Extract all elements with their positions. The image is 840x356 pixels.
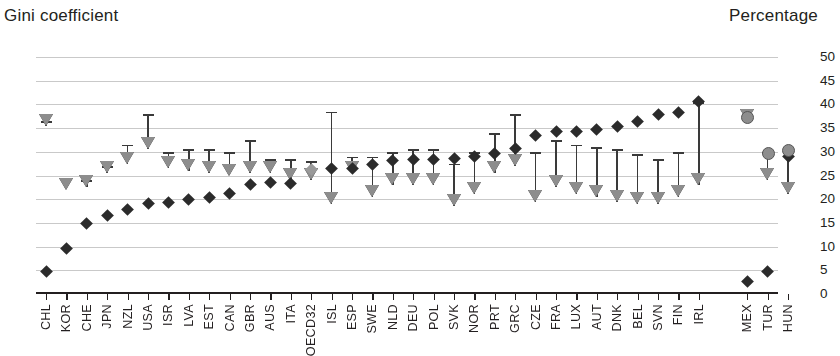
- x-axis-category-label: OECD32: [304, 304, 318, 356]
- percentage-triangle-marker: [528, 190, 542, 202]
- gini-diamond-marker: [386, 154, 399, 167]
- x-axis-tick: [638, 294, 639, 300]
- x-axis-tick: [597, 294, 598, 300]
- x-axis-tick: [536, 294, 537, 300]
- range-upper-cap: [326, 112, 337, 114]
- percentage-triangle-marker: [651, 192, 665, 204]
- x-axis-tick: [474, 294, 475, 300]
- range-upper-cap: [612, 149, 623, 151]
- y-axis-right-tick-label: 30: [820, 145, 840, 159]
- x-axis-category-label: PRT: [488, 304, 502, 330]
- x-axis-category-label: LVA: [182, 304, 196, 327]
- x-axis-category-label: GRC: [508, 304, 522, 333]
- percentage-triangle-marker: [467, 182, 481, 194]
- percentage-triangle-marker: [385, 173, 399, 185]
- percentage-triangle-marker: [487, 161, 501, 173]
- gini-diamond-marker: [325, 162, 338, 175]
- gini-diamond-marker: [244, 179, 257, 192]
- x-axis-tick: [168, 294, 169, 300]
- gridline: [36, 247, 778, 248]
- x-axis-category-label: IRL: [692, 304, 706, 325]
- y-axis-right-tick-label: 35: [820, 121, 840, 135]
- gridline: [36, 81, 778, 82]
- gini-diamond-marker: [223, 187, 236, 200]
- plot-area: 6050554550404535403035253020251520101551…: [36, 57, 778, 294]
- right-axis-title: Percentage: [729, 6, 818, 26]
- range-upper-cap: [428, 149, 439, 151]
- percentage-triangle-marker: [508, 154, 522, 166]
- percentage-triangle-marker: [100, 161, 114, 173]
- gini-diamond-marker: [509, 142, 522, 155]
- range-upper-cap: [530, 152, 541, 154]
- x-axis-category-label: SVK: [447, 304, 461, 330]
- x-axis-tick: [311, 294, 312, 300]
- y-axis-right-tick-label: 50: [820, 50, 840, 64]
- percentage-upper-marker: [741, 111, 754, 124]
- range-upper-cap: [224, 152, 235, 154]
- x-axis-category-label: MEX: [740, 304, 754, 332]
- percentage-triangle-marker: [120, 152, 134, 164]
- x-axis-tick: [495, 294, 496, 300]
- gridline: [36, 104, 778, 105]
- x-axis-tick: [768, 294, 769, 300]
- gini-diamond-marker: [121, 203, 134, 216]
- percentage-triangle-marker: [202, 161, 216, 173]
- y-axis-right-tick-label: 0: [820, 287, 840, 301]
- x-axis-category-label: CZE: [529, 304, 543, 330]
- x-axis-tick: [393, 294, 394, 300]
- x-axis-tick: [454, 294, 455, 300]
- range-upper-cap: [673, 152, 684, 154]
- x-axis-tick: [46, 294, 47, 300]
- x-axis-tick: [747, 294, 748, 300]
- x-axis-category-label: AUS: [263, 304, 277, 331]
- x-axis-tick: [372, 294, 373, 300]
- percentage-triangle-marker: [59, 178, 73, 190]
- x-axis-tick: [413, 294, 414, 300]
- x-axis-tick: [699, 294, 700, 300]
- y-axis-right-tick-label: 25: [820, 169, 840, 183]
- range-upper-cap: [510, 114, 521, 116]
- x-axis-category-label: NOR: [467, 304, 481, 333]
- y-axis-right-tick-label: 15: [820, 216, 840, 230]
- y-axis-right-tick-label: 45: [820, 74, 840, 88]
- gini-diamond-marker: [631, 115, 644, 128]
- x-axis-category-label: USA: [141, 304, 155, 331]
- x-axis-tick: [230, 294, 231, 300]
- gini-diamond-marker: [672, 106, 685, 119]
- range-line: [331, 112, 333, 204]
- gini-diamond-marker: [264, 176, 277, 189]
- x-axis-tick: [209, 294, 210, 300]
- x-axis-tick: [107, 294, 108, 300]
- x-axis-tick: [270, 294, 271, 300]
- gini-diamond-marker: [488, 147, 501, 160]
- x-axis-category-label: FRA: [549, 304, 563, 330]
- x-axis-tick: [332, 294, 333, 300]
- x-axis-category-label: CAN: [223, 304, 237, 332]
- percentage-triangle-marker: [781, 182, 795, 194]
- percentage-triangle-marker: [569, 182, 583, 194]
- range-upper-cap: [122, 145, 133, 147]
- percentage-triangle-marker: [181, 159, 195, 171]
- range-upper-cap: [347, 157, 358, 159]
- x-axis-tick: [352, 294, 353, 300]
- gini-diamond-marker: [101, 209, 114, 222]
- x-axis-tick: [576, 294, 577, 300]
- percentage-triangle-marker: [365, 185, 379, 197]
- x-axis-category-label: ISR: [161, 304, 175, 326]
- x-axis-category-label: SWE: [365, 304, 379, 334]
- y-axis-right-tick-label: 40: [820, 97, 840, 111]
- gini-diamond-marker: [40, 265, 53, 278]
- x-axis-category-label: TUR: [761, 304, 775, 331]
- range-upper-cap: [632, 154, 643, 156]
- x-axis-category-label: GBR: [243, 304, 257, 332]
- x-axis-category-label: CHE: [80, 304, 94, 332]
- percentage-triangle-marker: [589, 185, 603, 197]
- percentage-triangle-marker: [426, 173, 440, 185]
- x-axis-tick: [148, 294, 149, 300]
- gini-diamond-marker: [652, 108, 665, 121]
- gini-diamond-marker: [741, 275, 754, 288]
- gini-diamond-marker: [692, 95, 705, 108]
- gridline: [36, 223, 778, 224]
- range-upper-cap: [285, 159, 296, 161]
